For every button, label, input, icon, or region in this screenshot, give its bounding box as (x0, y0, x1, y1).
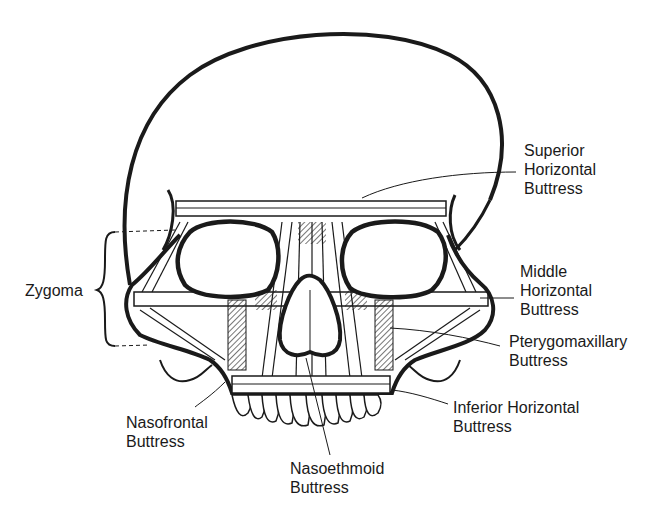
label-zygoma: Zygoma (25, 281, 83, 300)
left-orbit (178, 222, 279, 297)
label-middle-horizontal-buttress: Middle Horizontal Buttress (520, 262, 592, 319)
teeth (232, 395, 381, 426)
label-nasoethmoid-buttress: Nasoethmoid Buttress (290, 459, 384, 497)
label-inferior-horizontal-buttress: Inferior Horizontal Buttress (453, 398, 579, 436)
skull-buttress-diagram: Superior Horizontal Buttress Middle Hori… (0, 0, 665, 506)
label-nasofrontal-buttress: Nasofrontal Buttress (126, 413, 208, 451)
label-pterygomaxillary-buttress: Pterygomaxillary Buttress (509, 332, 627, 370)
label-superior-horizontal-buttress: Superior Horizontal Buttress (524, 141, 596, 198)
zygoma-bracket (97, 232, 115, 346)
right-orbit (342, 222, 446, 298)
